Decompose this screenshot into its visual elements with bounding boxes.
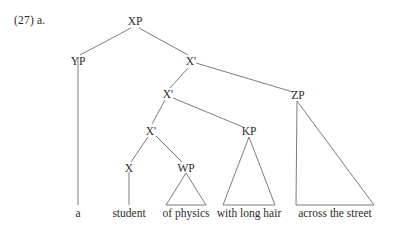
branch-xbar3-wp [156,136,182,162]
node-xp: XP [128,15,143,27]
node-kp: KP [242,125,257,137]
terminal-noun: student [112,207,146,219]
branch-xbar1-zp [196,63,293,92]
branch-xp-xbar1 [139,28,188,55]
branch-xbar3-x [131,137,148,162]
terminal-kp-phrase: with long hair [217,207,282,220]
terminal-det: a [75,207,80,219]
node-zp: ZP [291,89,304,101]
node-xbar-2: X' [163,88,173,100]
tree-terminals: a student of physics with long hair acro… [75,207,372,220]
tree-node-labels: XP YP X' X' X' X WP KP ZP [71,15,305,174]
node-yp: YP [71,55,86,67]
triangle-wp [166,173,206,205]
branch-xbar2-xbar3 [152,100,165,124]
branch-xp-yp [80,28,131,55]
branch-xbar2-kp [173,98,243,127]
tree-triangles [166,101,374,205]
node-x-head: X [125,162,134,174]
syntax-tree-figure: (27) a. X [0,0,393,232]
terminal-zp-phrase: across the street [298,207,372,219]
branch-xbar1-xbar2 [170,68,188,88]
node-xbar-3: X' [146,125,156,137]
node-wp: WP [177,162,194,174]
terminal-wp-phrase: of physics [163,207,210,220]
node-xbar-1: X' [186,55,196,67]
triangle-kp [223,137,275,205]
tree-diagram-svg: XP YP X' X' X' X WP KP ZP a student of p… [0,0,393,232]
triangle-zp [296,101,374,205]
